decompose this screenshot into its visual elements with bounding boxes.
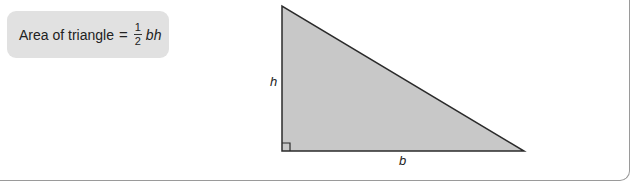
base-label: b (399, 153, 406, 168)
triangle-shape (282, 6, 524, 151)
height-label: h (270, 74, 277, 89)
right-triangle-diagram (0, 0, 634, 185)
